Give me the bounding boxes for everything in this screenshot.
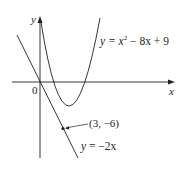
tangent-point <box>61 127 64 130</box>
tangent-line <box>17 35 78 158</box>
parabola-eq-rest: − 8x + 9 <box>127 35 169 47</box>
pointer-arrowhead-icon <box>65 126 69 129</box>
pointer-arrow <box>66 124 88 128</box>
point-label: (3, −6) <box>89 118 119 129</box>
parabola-equation-label: y = x2 − 8x + 9 <box>100 35 169 47</box>
y-axis-arrow-icon <box>38 16 43 23</box>
x-axis-arrow-icon <box>168 80 175 85</box>
origin-label: 0 <box>32 85 38 96</box>
tangent-equation-label: y = −2x <box>81 141 116 153</box>
y-axis-label: y <box>31 14 36 25</box>
tangent-eq-rest: = −2x <box>86 140 116 152</box>
parabola-eq-mid: = x <box>105 35 124 47</box>
parabola-curve <box>41 18 100 106</box>
x-axis-label: x <box>169 86 174 97</box>
